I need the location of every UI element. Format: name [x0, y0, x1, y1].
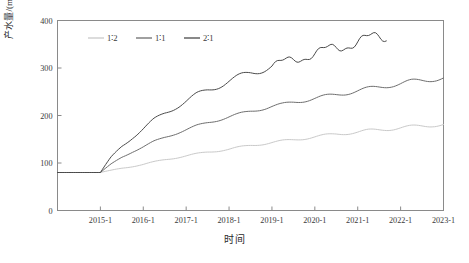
- x-tick-label: 2016-1: [132, 216, 155, 225]
- x-tick-label: 2018-1: [217, 216, 240, 225]
- x-tick-label: 2023-1: [432, 216, 455, 225]
- legend-label-1: 1∶2: [107, 33, 118, 43]
- x-tick-label: 2022-1: [389, 216, 412, 225]
- legend-label-3: 2∶1: [203, 33, 214, 43]
- x-tick-label: 2015-1: [89, 216, 112, 225]
- y-tick-label: 200: [40, 112, 52, 121]
- y-axis-title: 产水量/(m3/m3): [2, 0, 15, 63]
- x-tick-label: 2017-1: [175, 216, 198, 225]
- x-axis-title: 时间: [0, 231, 469, 246]
- y-tick-label: 0: [48, 207, 52, 216]
- x-tick-label: 2020-1: [303, 216, 326, 225]
- x-tick-label: 2019-1: [260, 216, 283, 225]
- x-axis-ticks: 2015-12016-12017-12018-12019-12020-12021…: [89, 207, 455, 225]
- y-tick-label: 300: [40, 64, 52, 73]
- x-tick-label: 2021-1: [346, 216, 369, 225]
- plot-frame: [58, 21, 444, 211]
- y-axis-title-text: 产水量/(m: [4, 0, 14, 39]
- y-tick-label: 400: [40, 17, 52, 26]
- line-chart-canvas: 0100200300400 2015-12016-12017-12018-120…: [0, 0, 469, 263]
- y-tick-label: 100: [40, 159, 52, 168]
- chart-figure: 0100200300400 2015-12016-12017-12018-120…: [0, 0, 469, 263]
- legend-label-2: 1∶1: [155, 33, 166, 43]
